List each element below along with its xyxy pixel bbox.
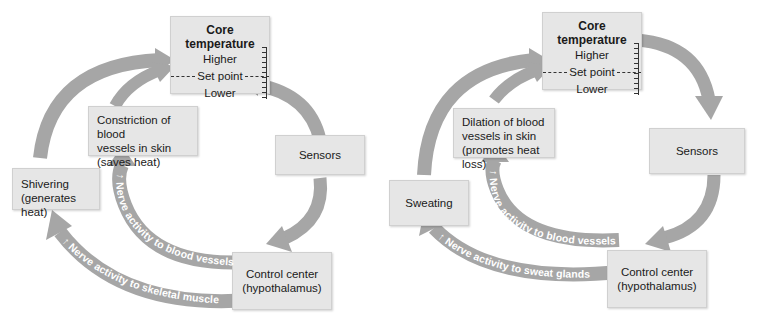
core-higher-label: Higher (543, 47, 641, 64)
arrow-vessels-to-core (115, 70, 160, 106)
cold-response-panel: Core temperature Higher Set point Lower … (0, 0, 378, 321)
core-lower-label: Lower (543, 81, 641, 98)
control-center-line1: Control center (621, 265, 693, 279)
core-lower-label: Lower (171, 85, 269, 102)
core-temperature-box: Core temperature Higher Set point Lower (542, 12, 642, 90)
warm-response-panel: Core temperature Higher Set point Lower … (379, 0, 757, 321)
arrow-sensors-to-control (285, 178, 321, 238)
outer-effector-box: Shivering (generates heat) (12, 168, 100, 210)
core-setpoint-label: Set point (567, 64, 616, 81)
outer-effector-box: Sweating (389, 180, 469, 226)
vessel-effector-box: Dilation of blood vessels in skin (promo… (453, 108, 555, 158)
outer-effector-line1: Shivering (21, 177, 91, 191)
thermometer-scale (261, 47, 267, 99)
control-center-line2: (hypothalamus) (617, 279, 696, 293)
vessel-effector-line2: vessels in skin (97, 141, 189, 155)
vessel-effector-line3: (promotes heat loss) (462, 143, 546, 171)
core-setpoint-label: Set point (195, 68, 244, 85)
control-center-line2: (hypothalamus) (242, 281, 321, 295)
outer-effector-line2: (generates heat) (21, 191, 91, 219)
control-center-line1: Control center (246, 267, 318, 281)
arrow-vessels-to-core (494, 70, 537, 100)
arrow-sensors-to-control (664, 175, 714, 238)
core-temperature-title: Core temperature (171, 23, 269, 51)
thermometer-scale (633, 43, 639, 95)
control-center-box: Control center (hypothalamus) (607, 250, 707, 308)
core-temperature-box: Core temperature Higher Set point Lower (170, 16, 270, 94)
sensors-box: Sensors (649, 128, 745, 174)
core-setpoint-row: Set point (171, 68, 269, 85)
core-temperature-title: Core temperature (543, 19, 641, 47)
sensors-box: Sensors (275, 135, 365, 175)
arrow-control-to-vessels (119, 165, 250, 263)
vessel-effector-line3: (saves heat) (97, 155, 189, 169)
vessel-effector-line2: vessels in skin (462, 129, 546, 143)
vessel-effector-line1: Constriction of blood (97, 113, 189, 141)
vessel-effector-box: Constriction of blood vessels in skin (s… (88, 106, 198, 156)
outer-effector-line1: Sweating (405, 196, 452, 210)
core-higher-label: Higher (171, 51, 269, 68)
sensors-label: Sensors (299, 148, 341, 162)
arrow-core-to-sensors (637, 40, 709, 100)
control-center-box: Control center (hypothalamus) (232, 252, 332, 310)
vessel-effector-line1: Dilation of blood (462, 115, 546, 129)
core-setpoint-row: Set point (543, 64, 641, 81)
arrow-control-to-vessels (492, 160, 619, 240)
sensors-label: Sensors (676, 144, 718, 158)
